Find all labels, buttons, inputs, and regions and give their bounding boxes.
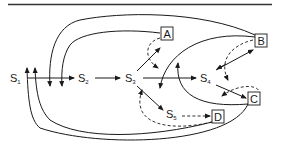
state-diagram: S1 S2 S3 S4 S5 A B C D <box>0 0 282 153</box>
svg-text:S2: S2 <box>78 72 89 85</box>
outcome-a: A <box>161 27 173 40</box>
loop-a-s3 <box>148 38 160 68</box>
svg-text:A: A <box>164 28 172 40</box>
loop-b-s4 <box>225 40 253 80</box>
svg-text:C: C <box>250 93 258 105</box>
outcome-d: D <box>212 110 224 123</box>
svg-text:S4: S4 <box>200 72 211 85</box>
state-s2: S2 <box>78 72 89 85</box>
edge-s3-a <box>137 48 160 71</box>
svg-text:S3: S3 <box>125 72 136 85</box>
svg-text:S5: S5 <box>166 108 177 121</box>
state-s1: S1 <box>10 72 21 85</box>
svg-text:D: D <box>214 111 222 123</box>
state-s4: S4 <box>200 72 211 85</box>
outcome-c: C <box>248 92 260 105</box>
outcome-b: B <box>255 34 267 47</box>
edge-s3-s5 <box>137 86 163 110</box>
state-s5: S5 <box>166 108 177 121</box>
svg-text:B: B <box>258 35 265 47</box>
arc-c-up <box>178 63 248 105</box>
svg-text:S1: S1 <box>10 72 21 85</box>
state-s3: S3 <box>125 72 136 85</box>
